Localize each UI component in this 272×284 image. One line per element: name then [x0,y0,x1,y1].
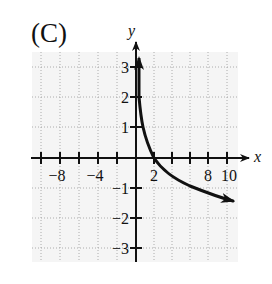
x-tick-label: 10 [221,167,237,184]
y-tick-label: −2 [112,210,129,227]
y-axis-label: y [126,22,136,40]
x-tick-label: 2 [150,167,158,184]
y-tick-label: 1 [121,119,129,136]
x-tick-label: 8 [204,167,212,184]
x-tick-label: −8 [48,167,65,184]
chart: x y −8 −4 2 8 10 3 2 1 −1 −2 −3 [0,0,272,284]
x-tick-label: −4 [86,167,103,184]
y-tick-label: −1 [112,180,129,197]
y-tick-label: 2 [121,89,129,106]
x-axis-label: x [253,148,261,165]
y-tick-label: −3 [112,240,129,257]
y-tick-label: 3 [121,59,129,76]
